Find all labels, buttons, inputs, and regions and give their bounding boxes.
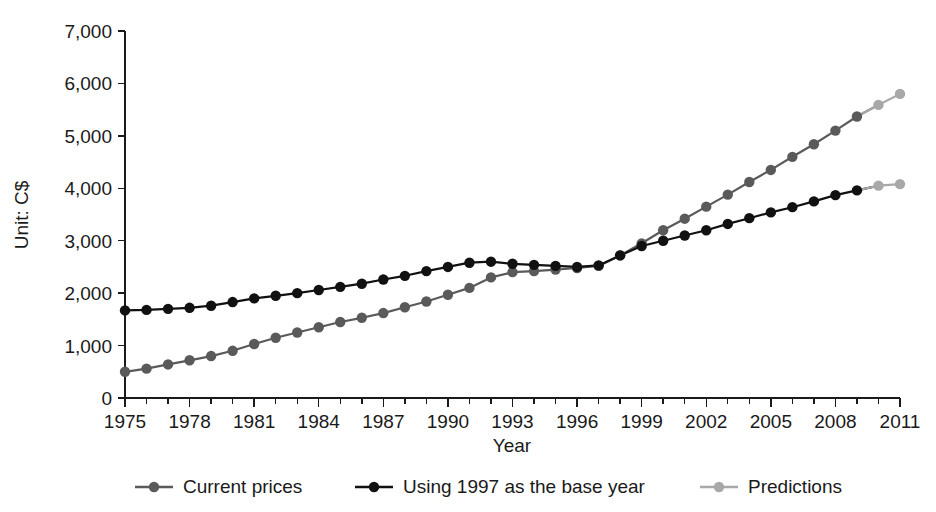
y-tick-label: 3,000 (64, 231, 112, 252)
series-group (120, 89, 905, 377)
y-tick-label: 1,000 (64, 336, 112, 357)
data-point (249, 293, 259, 303)
x-tick-label: 1984 (298, 411, 341, 432)
data-point (357, 313, 367, 323)
y-tick-label: 6,000 (64, 73, 112, 94)
x-axis-title: Year (493, 435, 532, 456)
legend-swatch-marker (149, 482, 159, 492)
x-tick-label: 1978 (168, 411, 210, 432)
data-point (335, 317, 345, 327)
data-point (701, 225, 711, 235)
data-point (227, 297, 237, 307)
data-point (486, 272, 496, 282)
data-point (141, 363, 151, 373)
data-point (723, 189, 733, 199)
data-point (680, 213, 690, 223)
x-tick-label: 1993 (491, 411, 533, 432)
chart-container: 01,0002,0003,0004,0005,0006,0007,000 197… (0, 0, 936, 512)
axes-group (125, 31, 900, 398)
series-line (125, 105, 879, 372)
data-point (809, 196, 819, 206)
data-point (507, 259, 517, 269)
data-point (809, 139, 819, 149)
x-tick-label: 1987 (362, 411, 404, 432)
data-point (357, 279, 367, 289)
prediction-point (895, 179, 905, 189)
data-point (400, 271, 410, 281)
legend-item[interactable]: Current prices (135, 476, 302, 497)
x-tick-label: 1981 (233, 411, 275, 432)
data-point (680, 230, 690, 240)
legend-item[interactable]: Using 1997 as the base year (355, 476, 646, 497)
data-point (550, 261, 560, 271)
data-point (378, 274, 388, 284)
data-point (658, 225, 668, 235)
x-tick-label: 2008 (814, 411, 856, 432)
data-point (120, 367, 130, 377)
y-tick-label: 7,000 (64, 21, 112, 42)
data-point (766, 165, 776, 175)
data-point (206, 351, 216, 361)
data-point (314, 285, 324, 295)
data-point (464, 283, 474, 293)
data-point (744, 177, 754, 187)
x-tick-label: 2011 (880, 411, 921, 432)
data-point (572, 262, 582, 272)
data-point (658, 236, 668, 246)
series-line (125, 186, 879, 311)
x-tick-label: 1999 (621, 411, 663, 432)
data-point (249, 339, 259, 349)
data-point (744, 213, 754, 223)
legend-item[interactable]: Predictions (700, 476, 842, 497)
data-point (335, 282, 345, 292)
data-point (292, 327, 302, 337)
data-point (830, 190, 840, 200)
data-point (270, 333, 280, 343)
legend-swatch-marker (714, 482, 724, 492)
data-point (227, 346, 237, 356)
x-tick-label: 1990 (427, 411, 469, 432)
y-tick-label: 0 (101, 388, 112, 409)
y-tick-label: 4,000 (64, 178, 112, 199)
y-axis-title: Unit: C$ (11, 180, 32, 249)
data-point (787, 202, 797, 212)
data-point (443, 262, 453, 272)
y-axis-ticks: 01,0002,0003,0004,0005,0006,0007,000 (64, 21, 125, 409)
x-tick-label: 1996 (556, 411, 598, 432)
chart-legend: Current pricesUsing 1997 as the base yea… (135, 476, 842, 497)
data-point (486, 256, 496, 266)
legend-label: Current prices (183, 476, 302, 497)
x-tick-label: 1975 (104, 411, 146, 432)
legend-swatch-marker (369, 482, 379, 492)
data-point (163, 359, 173, 369)
data-point (163, 304, 173, 314)
data-point (852, 185, 862, 195)
prediction-point (895, 89, 905, 99)
data-point (593, 260, 603, 270)
data-point (464, 258, 474, 268)
data-point (529, 260, 539, 270)
data-point (421, 296, 431, 306)
data-point (787, 152, 797, 162)
x-axis-ticks: 1975197819811984198719901993199619992002… (104, 398, 921, 432)
prediction-point (873, 100, 883, 110)
data-point (443, 290, 453, 300)
data-point (766, 207, 776, 217)
line-chart: 01,0002,0003,0004,0005,0006,0007,000 197… (0, 0, 936, 512)
data-point (421, 266, 431, 276)
legend-label: Using 1997 as the base year (403, 476, 646, 497)
y-tick-label: 5,000 (64, 126, 112, 147)
data-point (206, 301, 216, 311)
data-point (292, 288, 302, 298)
data-point (378, 308, 388, 318)
axis-lines (125, 31, 900, 398)
data-point (314, 322, 324, 332)
data-point (723, 219, 733, 229)
legend-label: Predictions (748, 476, 842, 497)
data-point (184, 303, 194, 313)
data-point (184, 355, 194, 365)
data-point (636, 241, 646, 251)
data-point (400, 302, 410, 312)
data-point (701, 201, 711, 211)
data-point (141, 305, 151, 315)
